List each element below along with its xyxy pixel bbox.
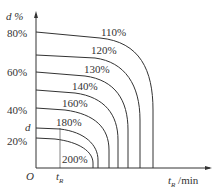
d-marker-label: d [25, 121, 31, 133]
tr-marker-label: tR [56, 170, 63, 187]
curve-label-120: 120% [91, 44, 117, 56]
y-tick-20: 20% [7, 135, 27, 147]
y-tick-80: 80% [7, 27, 27, 39]
origin-label: O [26, 170, 34, 182]
y-axis-arrow [34, 11, 38, 18]
y-axis-label: d % [6, 10, 23, 22]
x-axis-label: tR /min [168, 174, 198, 188]
y-tick-40: 40% [7, 104, 27, 116]
curve-label-130: 130% [84, 63, 110, 75]
curve-label-110: 110% [101, 26, 126, 38]
x-axis-arrow [205, 166, 212, 170]
y-tick-60: 60% [7, 66, 27, 78]
curve-label-160: 160% [62, 97, 88, 109]
curve-label-180: 180% [56, 116, 82, 128]
curve-label-140: 140% [72, 80, 98, 92]
curve-label-200: 200% [62, 153, 88, 165]
